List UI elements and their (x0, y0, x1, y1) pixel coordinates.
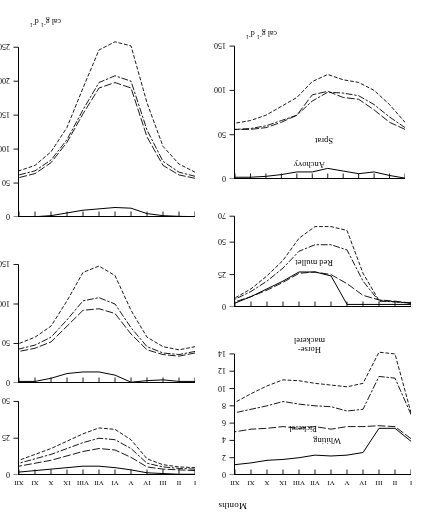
y-tick-label: 150 (0, 260, 10, 269)
y-tick-label: 25 (218, 270, 226, 279)
x-tick-label: XII (230, 479, 240, 487)
x-tick-label: IX (63, 479, 70, 487)
series-sprat-dash-dot (235, 92, 405, 129)
y-tick-label: 0 (222, 471, 226, 480)
x-tick-label: V (344, 479, 349, 487)
series-pickerel-dash-dot (19, 438, 195, 469)
y-tick-label: 150 (214, 42, 226, 51)
series-anchovy-dash-dot (19, 76, 195, 177)
panel-anchovy: 050100150200250Anchovy (19, 35, 195, 217)
y-tick-label: 0 (6, 379, 10, 388)
x-tick-label: IV (359, 479, 366, 487)
y-unit-label-left: cal g-1 d-1 (246, 29, 277, 40)
panel-title-pickerel: Pickerel (289, 424, 317, 433)
panel-red-mullet: 0255070Red mullet (235, 211, 411, 307)
panel-title-sprat: Sprat (315, 136, 333, 145)
y-tick-label: 0 (6, 471, 10, 480)
plot-canvas-horse-mackerel (0, 249, 195, 383)
series-sprat-short-dash (235, 74, 405, 123)
y-tick-label: 200 (0, 77, 10, 86)
y-tick-label: 6 (222, 419, 226, 428)
y-tick-label: 100 (214, 86, 226, 95)
panel-whiting: 02468101214IIIIIIIVVVIVIIVIIIIXXXIXIIWhi… (235, 347, 411, 475)
series-horse-mackerel-solid (19, 372, 195, 382)
y-tick-label: 0 (222, 303, 226, 312)
figure-root: Months 02468101214IIIIIIIVVVIVIIVIIIIXXX… (0, 0, 429, 517)
series-horse-mackerel-long-dash (19, 309, 195, 356)
series-red-mullet-solid (235, 272, 411, 304)
x-tick-label: VIII (77, 479, 89, 487)
panel-title-line: Horse- (294, 345, 325, 354)
y-tick-label: 0 (6, 213, 10, 222)
panel-title-horse-mackerel: Horse-mackerel (294, 336, 325, 354)
y-tick-label: 2 (222, 453, 226, 462)
y-tick-label: 150 (0, 111, 10, 120)
x-tick-labels-whiting: IIIIIIIVVVIVIIVIIIIXXXIXII (235, 476, 411, 487)
x-tick-label: II (177, 479, 182, 487)
x-tick-label: IV (143, 479, 150, 487)
series-horse-mackerel-dash-dot (19, 298, 195, 355)
y-tick-label: 14 (218, 349, 226, 358)
panel-sprat: 050100150Sprat (235, 39, 405, 179)
series-whiting-short-dash (235, 352, 411, 413)
x-tick-label: I (410, 479, 412, 487)
plot-canvas-red-mullet (213, 205, 411, 307)
x-tick-labels-pickerel: IIIIIIIVVVIVIIVIIIIXXXIXII (19, 476, 195, 487)
x-tick-label: III (376, 479, 383, 487)
x-tick-label: XI (31, 479, 38, 487)
series-whiting-dash-dot (235, 376, 411, 414)
y-tick-label: 70 (218, 212, 226, 221)
panel-title-whiting: Whiting (313, 436, 341, 445)
y-tick-label: 100 (0, 300, 10, 309)
y-tick-label: 50 (218, 238, 226, 247)
y-tick-label: 8 (222, 401, 226, 410)
x-tick-label: XI (247, 479, 254, 487)
x-tick-label: VI (327, 479, 334, 487)
series-horse-mackerel-short-dash (19, 266, 195, 350)
panel-pickerel: 02550IIIIIIIVVVIVIIVIIIIXXXIXIIPickerel (19, 397, 195, 475)
y-tick-label: 250 (0, 43, 10, 52)
plot-canvas-anchovy (0, 29, 195, 217)
panel-title-line: mackerel (294, 336, 325, 345)
plot-canvas-sprat (213, 33, 405, 179)
panel-horse-mackerel: 050100150Horse-mackerel (19, 255, 195, 383)
x-tick-label: II (393, 479, 398, 487)
plot-canvas-whiting (213, 341, 411, 475)
series-red-mullet-long-dash (235, 272, 411, 303)
x-tick-label: XII (14, 479, 24, 487)
panel-title-anchovy: Anchovy (294, 160, 325, 169)
x-axis-title: Months (218, 501, 247, 511)
x-tick-label: I (194, 479, 196, 487)
series-anchovy-solid (19, 207, 195, 216)
x-tick-label: VII (310, 479, 320, 487)
x-tick-label: X (264, 479, 269, 487)
panel-title-red-mullet: Red mullet (295, 258, 333, 267)
y-tick-label: 50 (2, 397, 10, 406)
x-tick-label: VIII (293, 479, 305, 487)
x-tick-label: III (160, 479, 167, 487)
y-tick-label: 10 (218, 384, 226, 393)
y-tick-label: 25 (2, 434, 10, 443)
y-tick-label: 4 (222, 436, 226, 445)
x-tick-label: VII (94, 479, 104, 487)
y-unit-label-right: cal g-1 d-1 (30, 17, 61, 28)
y-tick-label: 50 (218, 130, 226, 139)
series-anchovy-short-dash (19, 42, 195, 172)
x-tick-label: IX (279, 479, 286, 487)
series-whiting-solid (235, 428, 411, 464)
y-tick-label: 50 (2, 339, 10, 348)
y-tick-label: 0 (222, 175, 226, 184)
y-tick-label: 100 (0, 145, 10, 154)
x-tick-label: X (48, 479, 53, 487)
x-tick-label: VI (111, 479, 118, 487)
y-tick-label: 50 (2, 179, 10, 188)
y-tick-label: 12 (218, 367, 226, 376)
plot-canvas-pickerel (0, 391, 195, 475)
x-tick-label: V (128, 479, 133, 487)
